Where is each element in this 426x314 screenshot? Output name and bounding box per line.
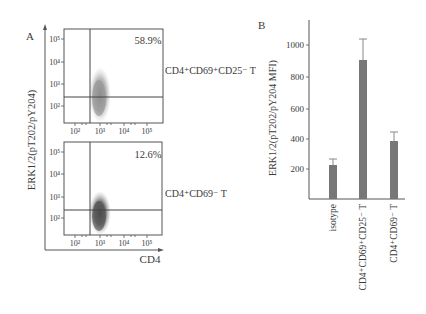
x-tick-label: 10³ — [95, 127, 106, 136]
y-tick-label: 10⁵ — [49, 148, 60, 157]
x-tick-label: 10³ — [95, 239, 106, 248]
cell-cluster-core — [92, 201, 106, 231]
figure: A ERK1/2(pT202/pY204) CD4 58.9% 10⁵ 10⁴ … — [0, 0, 426, 314]
bar-cd4-cd69pos-cd25neg — [359, 39, 367, 199]
x-tick-label: 10⁴ — [119, 239, 130, 248]
x-axis-arrow-icon — [158, 248, 164, 252]
population-label: CD4⁺CD69⁻ T — [165, 188, 227, 199]
bar — [390, 141, 398, 199]
bar-cd4-cd69neg — [390, 132, 398, 199]
cell-cluster-core — [92, 80, 106, 116]
x-tick-labels: 10² 10³ 10⁴ 10⁵ — [70, 127, 153, 136]
bar — [359, 60, 367, 199]
panel-b: B ERK1/2(pT202/pY204 MFI) 200 400 600 80… — [258, 19, 405, 290]
y-tick-label: 10² — [50, 102, 61, 111]
x-axis-label: CD4 — [140, 253, 161, 265]
dot-plot-top: 58.9% 10⁵ 10⁴ 10³ 10² 10² — [49, 29, 256, 136]
x-tick-label: 10² — [70, 239, 81, 248]
x-tick-label: 10⁴ — [119, 127, 130, 136]
y-tick-labels: 10⁵ 10⁴ 10³ 10² — [49, 35, 60, 111]
population-label: CD4⁺CD69⁺CD25⁻ T — [165, 65, 256, 76]
y-axis-label: ERK1/2(pT202/pY204) — [26, 89, 38, 190]
y-tick-label: 200 — [291, 164, 305, 174]
panel-b-label: B — [258, 19, 265, 31]
y-axis-arrow-icon — [43, 24, 47, 30]
y-tick-labels: 10⁵ 10⁴ 10³ 10² — [49, 148, 60, 223]
y-tick-label: 10⁵ — [49, 35, 60, 44]
panel-a: A ERK1/2(pT202/pY204) CD4 58.9% 10⁵ 10⁴ … — [26, 24, 256, 265]
y-tick-label: 10² — [50, 214, 61, 223]
gate-percent: 58.9% — [134, 35, 161, 46]
y-tick-label: 10⁴ — [49, 170, 60, 179]
category-label: CD4⁺CD69⁻ T — [389, 204, 399, 263]
x-tick-label: 10² — [70, 127, 81, 136]
panel-a-label: A — [26, 30, 34, 42]
y-tick-label: 400 — [291, 134, 305, 144]
y-tick-label: 800 — [291, 72, 305, 82]
x-tick-labels: 10² 10³ 10⁴ 10⁵ — [70, 239, 153, 248]
y-tick-label: 10³ — [50, 80, 61, 89]
y-tick-label: 10⁴ — [49, 58, 60, 67]
bar — [329, 165, 337, 199]
x-tick-label: 10⁵ — [142, 239, 153, 248]
y-tick-label: 10³ — [50, 193, 61, 202]
y-tick-label: 600 — [291, 104, 305, 114]
y-tick-labels: 200 400 600 800 1000 — [286, 40, 305, 174]
category-label: CD4⁺CD69⁺CD25⁻ T — [358, 204, 368, 291]
y-axis-label: ERK1/2(pT202/pY204 MFI) — [267, 60, 279, 176]
x-category-labels: isotype CD4⁺CD69⁺CD25⁻ T CD4⁺CD69⁻ T — [328, 204, 399, 291]
category-label: isotype — [328, 204, 338, 231]
bar-isotype — [329, 159, 337, 199]
gate-percent: 12.6% — [134, 149, 161, 160]
dot-plot-bottom: 12.6% 10⁵ 10⁴ 10³ 10² 10² 10³ 10 — [49, 142, 227, 248]
x-tick-label: 10⁵ — [142, 127, 153, 136]
y-tick-label: 1000 — [286, 40, 305, 50]
